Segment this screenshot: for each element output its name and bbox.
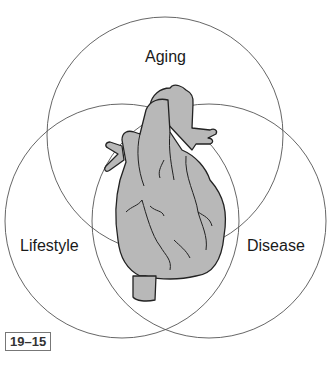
figure-number: 19–15 <box>5 332 51 351</box>
lifestyle-label: Lifestyle <box>20 237 79 255</box>
aging-label: Aging <box>145 48 186 66</box>
disease-label: Disease <box>247 237 305 255</box>
heart-icon <box>105 85 226 301</box>
